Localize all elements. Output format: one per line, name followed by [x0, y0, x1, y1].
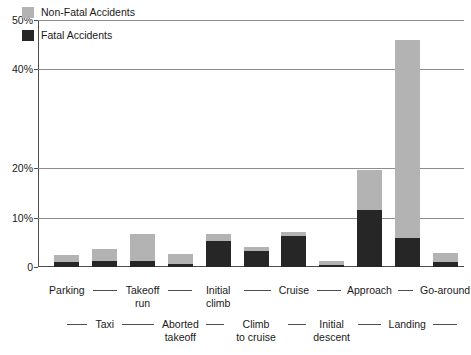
x-label-takeoff-run: Takeoff run	[114, 284, 172, 309]
bar-cruise	[281, 232, 306, 267]
leader-line-bottom-start	[67, 324, 87, 325]
bar-segment-non-fatal	[54, 255, 79, 262]
chart-root: 50%40%20%10%0 Non-Fatal AccidentsFatal A…	[0, 0, 471, 355]
y-tick-label-40: 40%	[0, 63, 33, 75]
bar-segment-fatal	[244, 251, 269, 267]
x-label-initial-descent: Initial descent	[303, 318, 361, 343]
bar-parking	[54, 255, 79, 267]
bar-go-around	[433, 253, 458, 267]
bar-segment-non-fatal	[206, 234, 231, 241]
bar-aborted-takeoff	[168, 254, 193, 267]
leader-line-top-6	[317, 290, 341, 291]
y-axis-line	[38, 20, 39, 267]
bar-segment-fatal	[54, 262, 79, 267]
leader-line-top-2	[168, 290, 192, 291]
bar-segment-fatal	[395, 238, 420, 267]
bar-segment-fatal	[281, 236, 306, 267]
bar-segment-fatal	[206, 241, 231, 267]
bar-segment-non-fatal	[168, 254, 193, 264]
bar-segment-fatal	[130, 261, 155, 267]
leader-line-bottom-5	[288, 324, 306, 325]
bar-segment-non-fatal	[130, 234, 155, 261]
legend-label: Fatal Accidents	[41, 29, 112, 41]
chart-legend: Non-Fatal AccidentsFatal Accidents	[22, 6, 135, 52]
y-tick-label-0: 0	[0, 261, 33, 273]
bar-segment-non-fatal	[92, 249, 117, 261]
leader-line-bottom-3	[206, 324, 224, 325]
bar-segment-non-fatal	[357, 170, 382, 211]
x-label-approach: Approach	[340, 284, 398, 297]
legend-swatch-icon	[22, 7, 34, 18]
x-label-landing: Landing	[378, 318, 436, 331]
leader-line-bottom-7	[358, 324, 382, 325]
legend-item-non-fatal: Non-Fatal Accidents	[22, 6, 135, 18]
bar-segment-fatal	[168, 264, 193, 267]
leader-line-top-4	[244, 290, 271, 291]
bar-segment-fatal	[92, 261, 117, 267]
legend-label: Non-Fatal Accidents	[41, 6, 135, 18]
plot-area	[38, 20, 464, 267]
leader-line-bottom-1	[122, 324, 154, 325]
x-label-parking: Parking	[38, 284, 96, 297]
x-label-climb-to cruise: Climb to cruise	[227, 318, 285, 343]
y-tick-mark-0	[34, 267, 38, 268]
leader-line-top-8	[398, 290, 413, 291]
x-label-go-around: Go-around	[416, 284, 471, 297]
bar-segment-fatal	[319, 265, 344, 267]
bar-segment-non-fatal	[395, 40, 420, 238]
bar-segment-fatal	[357, 210, 382, 267]
bar-takeoff-run	[130, 234, 155, 267]
x-label-cruise: Cruise	[265, 284, 323, 297]
bar-climb-to cruise	[244, 247, 269, 267]
y-tick-label-10: 10%	[0, 212, 33, 224]
bar-initial-descent	[319, 261, 344, 267]
bar-segment-non-fatal	[433, 253, 458, 262]
leader-line-bottom-end	[433, 324, 457, 325]
bar-segment-fatal	[433, 262, 458, 267]
bar-taxi	[92, 249, 117, 267]
x-label-initial-climb: Initial climb	[189, 284, 247, 309]
leader-line-top-0	[93, 290, 117, 291]
legend-item-fatal: Fatal Accidents	[22, 29, 135, 41]
legend-swatch-icon	[22, 30, 34, 41]
x-label-aborted-takeoff: Aborted takeoff	[151, 318, 209, 343]
bar-landing	[395, 40, 420, 267]
y-tick-label-20: 20%	[0, 162, 33, 174]
bar-initial-climb	[206, 234, 231, 267]
bar-approach	[357, 170, 382, 267]
